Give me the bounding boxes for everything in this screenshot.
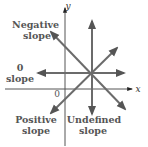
origin-label: 0 [53,89,61,99]
negative-slope-line [51,32,125,109]
positive-slope-line [51,48,117,113]
slope-diagram: y x 0 Negative slope 0 slope Positive sl… [0,0,148,147]
x-axis-label: x [134,84,142,94]
y-axis-label: y [64,1,72,11]
